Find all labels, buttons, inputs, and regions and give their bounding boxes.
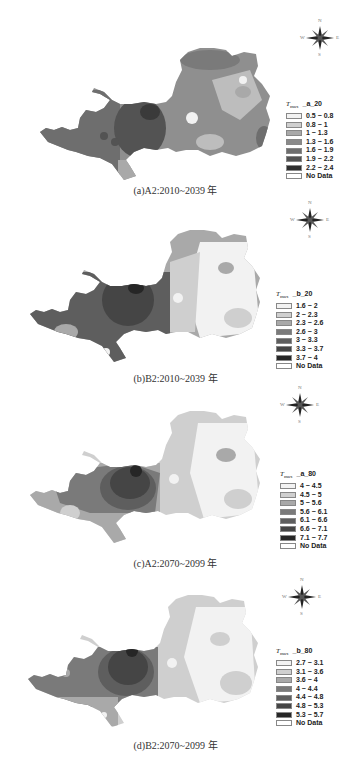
compass-w: W	[300, 35, 305, 40]
legend-item: 2 ~ 2.3	[276, 311, 323, 320]
legend-item: 6.6 ~ 7.1	[280, 525, 327, 534]
legend-item: 3.1 ~ 3.6	[276, 668, 323, 677]
north-arrow-compass: N S W E	[290, 200, 330, 240]
panel-a: N S W E Tmax_a_20 0.5 ~ 0.8 0.8 ~ 1 1 ~ …	[0, 0, 351, 190]
map-c	[0, 385, 280, 560]
compass-n: N	[318, 18, 322, 23]
caption-b: (b)B2:2010~2039 年	[0, 370, 351, 385]
legend-item: 5 ~ 5.6	[280, 499, 327, 508]
legend-item: 3.6 ~ 4	[276, 676, 323, 685]
legend-item: 6.1 ~ 6.6	[280, 516, 327, 525]
legend-item: 7.1 ~ 7.7	[280, 534, 327, 543]
legend-item: No Data	[280, 542, 327, 551]
legend-item: 3.3 ~ 3.7	[276, 345, 323, 354]
legend-item: 5.6 ~ 6.1	[280, 508, 327, 517]
legend-item: 2.7 ~ 3.1	[276, 659, 323, 668]
legend-item: 1.6 ~ 1.9	[286, 146, 333, 155]
map-a	[0, 0, 280, 185]
panel-d: N S W E Tmax_b_80 2.7 ~ 3.1 3.1 ~ 3.6 3.…	[0, 575, 351, 759]
legend-item: 4.5 ~ 5	[280, 491, 327, 500]
legend-item: 1 ~ 1.3	[286, 129, 333, 138]
legend-item: 5.3 ~ 5.7	[276, 711, 323, 720]
caption-c: (c)A2:2070~2099 年	[0, 555, 351, 570]
legend-item: 2.2 ~ 2.4	[286, 164, 333, 173]
legend-item: 1.6 ~ 2	[276, 302, 323, 311]
legend-item: 3 ~ 3.3	[276, 336, 323, 345]
panel-c: N S W E Tmax_a_80 4 ~ 4.5 4.5 ~ 5 5 ~ 5.…	[0, 385, 351, 570]
legend-item: 4 ~ 4.5	[280, 482, 327, 491]
legend-item: 4.4 ~ 4.8	[276, 693, 323, 702]
north-arrow-compass: N S W E	[282, 577, 322, 617]
legend-b: Tmax_b_20 1.6 ~ 2 2 ~ 2.3 2.3 ~ 2.6 2.6 …	[276, 290, 323, 371]
legend-a: Tmax_a_20 0.5 ~ 0.8 0.8 ~ 1 1 ~ 1.3 1.3 …	[286, 100, 333, 181]
panel-b: N S W E Tmax_b_20 1.6 ~ 2 2 ~ 2.3 2.3 ~ …	[0, 190, 351, 380]
legend-item: 3.7 ~ 4	[276, 354, 323, 363]
legend-code: _a_20	[303, 100, 322, 109]
legend-item: 1.3 ~ 1.6	[286, 138, 333, 147]
legend-item: 0.5 ~ 0.8	[286, 112, 333, 121]
compass-s: S	[318, 52, 321, 57]
legend-item: 4.8 ~ 5.3	[276, 702, 323, 711]
north-arrow-compass: N S W E	[280, 385, 320, 425]
caption-d: (d)B2:2070~2099 年	[0, 737, 351, 752]
legend-item: 2.3 ~ 2.6	[276, 319, 323, 328]
legend-c: Tmax_a_80 4 ~ 4.5 4.5 ~ 5 5 ~ 5.6 5.6 ~ …	[280, 470, 327, 551]
legend-item: No Data	[286, 172, 333, 181]
legend-item: 2.6 ~ 3	[276, 328, 323, 337]
map-d	[0, 575, 280, 740]
legend-d: Tmax_b_80 2.7 ~ 3.1 3.1 ~ 3.6 3.6 ~ 4 4 …	[276, 647, 323, 728]
legend-var: Tmax	[286, 100, 299, 112]
map-b	[0, 190, 280, 375]
legend-item: No Data	[276, 719, 323, 728]
compass-e: E	[336, 35, 339, 40]
north-arrow-compass: N S W E	[300, 18, 340, 58]
legend-item: 1.9 ~ 2.2	[286, 155, 333, 164]
legend-item: 0.8 ~ 1	[286, 121, 333, 130]
legend-item: 4 ~ 4.4	[276, 685, 323, 694]
